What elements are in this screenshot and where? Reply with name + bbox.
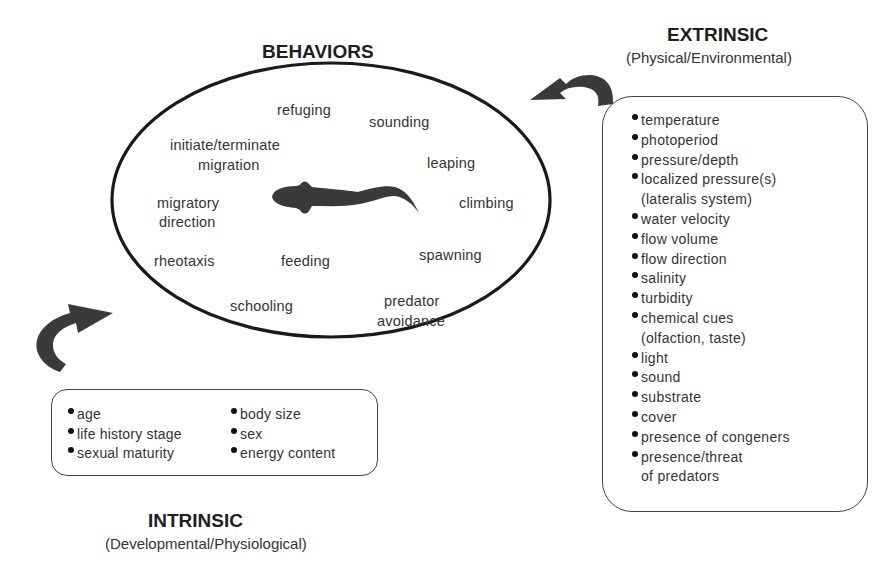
behavior-initiate-terminate: initiate/terminate xyxy=(170,135,280,156)
extrinsic-item: photoperiod xyxy=(632,131,790,151)
fish-silhouette-icon xyxy=(272,181,419,213)
extrinsic-item-continuation: (olfaction, taste) xyxy=(632,329,790,349)
extrinsic-item: flow direction xyxy=(632,250,790,270)
bullet-icon xyxy=(632,233,638,239)
bullet-icon xyxy=(632,173,638,179)
extrinsic-factors-list: temperature photoperiod pressure/depth l… xyxy=(632,111,790,487)
intrinsic-item: energy content xyxy=(231,444,335,464)
intrinsic-factors-column-2: body size sex energy content xyxy=(231,405,335,464)
extrinsic-item: temperature xyxy=(632,111,790,131)
extrinsic-item: cover xyxy=(632,408,790,428)
extrinsic-item: flow volume xyxy=(632,230,790,250)
intrinsic-subtitle: (Developmental/Physiological) xyxy=(105,535,307,552)
curved-arrow-right-icon xyxy=(36,304,113,372)
behavior-climbing: climbing xyxy=(459,193,514,214)
bullet-icon xyxy=(231,428,237,434)
bullet-icon xyxy=(632,213,638,219)
behavior-rheotaxis: rheotaxis xyxy=(154,251,215,272)
bullet-icon xyxy=(632,292,638,298)
intrinsic-item: sexual maturity xyxy=(68,444,182,464)
bullet-icon xyxy=(632,272,638,278)
extrinsic-item: light xyxy=(632,349,790,369)
bullet-icon xyxy=(632,371,638,377)
bullet-icon xyxy=(231,447,237,453)
bullet-icon xyxy=(68,408,74,414)
bullet-icon xyxy=(632,391,638,397)
intrinsic-item: sex xyxy=(231,425,335,445)
bullet-icon xyxy=(632,451,638,457)
extrinsic-item: pressure/depth xyxy=(632,151,790,171)
bullet-icon xyxy=(632,352,638,358)
behavior-leaping: leaping xyxy=(427,153,475,174)
extrinsic-item: substrate xyxy=(632,388,790,408)
curved-arrow-left-icon xyxy=(530,75,613,106)
behavior-direction: direction xyxy=(159,212,216,233)
extrinsic-item: salinity xyxy=(632,269,790,289)
bullet-icon xyxy=(632,134,638,140)
behavior-predator: predator xyxy=(384,291,440,312)
extrinsic-item: turbidity xyxy=(632,289,790,309)
bullet-icon xyxy=(68,447,74,453)
extrinsic-item: presence of congeners xyxy=(632,428,790,448)
behavior-sounding: sounding xyxy=(369,112,429,133)
intrinsic-title: INTRINSIC xyxy=(148,510,243,532)
extrinsic-item: presence/threat xyxy=(632,448,790,468)
extrinsic-title: EXTRINSIC xyxy=(667,24,768,46)
extrinsic-item: sound xyxy=(632,368,790,388)
behavior-migratory: migratory xyxy=(157,193,219,214)
bullet-icon xyxy=(68,428,74,434)
behavior-schooling: schooling xyxy=(230,296,293,317)
extrinsic-item: localized pressure(s) xyxy=(632,170,790,190)
behavior-migration: migration xyxy=(198,155,259,176)
behaviors-title: BEHAVIORS xyxy=(262,41,374,63)
intrinsic-item: life history stage xyxy=(68,425,182,445)
bullet-icon xyxy=(632,431,638,437)
extrinsic-item-continuation: (lateralis system) xyxy=(632,190,790,210)
extrinsic-subtitle: (Physical/Environmental) xyxy=(626,49,792,66)
intrinsic-factors-column-1: age life history stage sexual maturity xyxy=(68,405,182,464)
behavior-refuging: refuging xyxy=(277,100,331,121)
behavior-avoidance: avoidance xyxy=(377,311,445,332)
bullet-icon xyxy=(632,114,638,120)
behavior-feeding: feeding xyxy=(281,251,330,272)
extrinsic-item: water velocity xyxy=(632,210,790,230)
bullet-icon xyxy=(632,312,638,318)
intrinsic-item: age xyxy=(68,405,182,425)
behavior-spawning: spawning xyxy=(419,245,482,266)
bullet-icon xyxy=(632,154,638,160)
extrinsic-item-continuation: of predators xyxy=(632,467,790,487)
bullet-icon xyxy=(632,253,638,259)
bullet-icon xyxy=(231,408,237,414)
bullet-icon xyxy=(632,411,638,417)
extrinsic-item: chemical cues xyxy=(632,309,790,329)
intrinsic-item: body size xyxy=(231,405,335,425)
